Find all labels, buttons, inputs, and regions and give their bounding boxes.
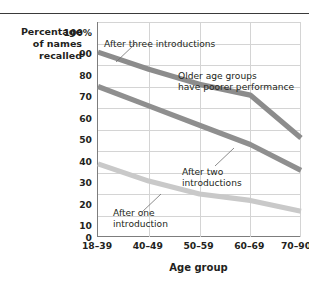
x-tick-40-49: 40–49 xyxy=(133,240,163,251)
top-rule xyxy=(0,13,309,14)
y-tick-20: 20 xyxy=(58,199,92,210)
x-axis-title: Age group xyxy=(97,262,300,273)
x-tick-50-59: 50–59 xyxy=(183,240,213,251)
x-tick-60-69: 60–69 xyxy=(234,240,264,251)
y-tick-70: 70 xyxy=(58,91,92,102)
annotation-after-one-line-1: After one xyxy=(113,208,155,219)
series-lines xyxy=(98,22,301,237)
y-tick-60: 60 xyxy=(58,113,92,124)
annotation-after-one-line-2: introduction xyxy=(113,219,168,230)
y-tick-80: 80 xyxy=(58,70,92,81)
x-tick-70-90: 70–90 xyxy=(281,240,309,251)
y-tick-30: 30 xyxy=(58,177,92,188)
annotation-older-groups-line-2: have poorer performance xyxy=(178,82,294,93)
annotation-after-two-line-1: After two xyxy=(182,167,223,178)
plot-area xyxy=(97,22,300,237)
annotation-after-three: After three introductions xyxy=(104,39,215,50)
y-tick-100: 100% xyxy=(58,27,92,38)
y-tick-10: 10 xyxy=(58,220,92,231)
annotation-after-two-line-2: introductions xyxy=(182,178,242,189)
y-tick-40: 40 xyxy=(58,156,92,167)
y-tick-90: 90 xyxy=(58,48,92,59)
line-after-two-introductions xyxy=(98,87,301,171)
annotation-older-groups-line-1: Older age groups xyxy=(178,71,257,82)
chart-figure: Percentage of names recalled 100% 90 80 … xyxy=(0,0,309,290)
x-tick-18-39: 18–39 xyxy=(82,240,112,251)
y-tick-50: 50 xyxy=(58,134,92,145)
